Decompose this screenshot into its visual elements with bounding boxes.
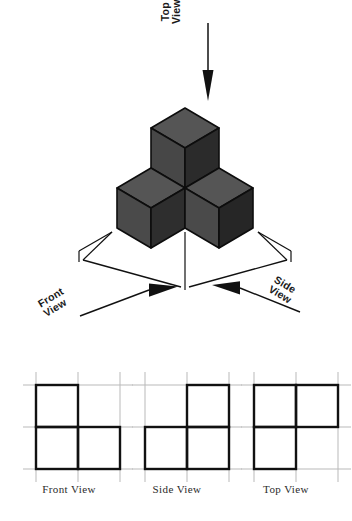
ortho-cell [36,427,78,469]
ortho-cell [254,427,296,469]
ortho-view-side [132,372,242,482]
top-view-label: Top View [231,483,341,495]
ortho-view-front [23,372,133,482]
ortho-cell [187,385,229,427]
ortho-view-top [241,372,351,482]
drawing-canvas: Top View Front View Side View Front View… [0,0,352,521]
ortho-cell [187,427,229,469]
side-view-label: Side View [122,483,232,495]
front-view-label: Front View [14,483,124,495]
orthographic-views [0,0,352,521]
ortho-cell [78,427,120,469]
ortho-cell [296,385,338,427]
ortho-cell [145,427,187,469]
ortho-cell [254,385,296,427]
ortho-cell [36,385,78,427]
